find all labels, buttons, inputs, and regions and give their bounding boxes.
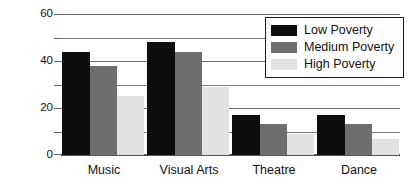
y-tick-60 xyxy=(54,14,61,15)
bar-dance-low-poverty xyxy=(317,115,345,155)
bar-chart: Percentage of Students 60 40 20 0 xyxy=(0,0,410,192)
legend-item-medium-poverty: Medium Poverty xyxy=(271,39,398,56)
bar-dance-high-poverty xyxy=(372,139,399,156)
legend-label-high-poverty: High Poverty xyxy=(304,58,376,71)
legend-swatch-medium-poverty xyxy=(271,42,297,53)
bar-theatre-high-poverty xyxy=(287,134,314,155)
legend-label-medium-poverty: Medium Poverty xyxy=(304,41,394,54)
y-tick-10 xyxy=(54,132,61,133)
legend: Low Poverty Medium Poverty High Poverty xyxy=(265,17,404,78)
y-tick-0 xyxy=(54,154,61,155)
y-tick-label-20: 20 xyxy=(29,102,53,114)
y-tick-label-60: 60 xyxy=(29,8,53,20)
x-axis-label-music: Music xyxy=(62,163,146,177)
legend-item-low-poverty: Low Poverty xyxy=(271,22,398,39)
legend-swatch-high-poverty xyxy=(271,59,297,70)
x-axis-label-visual-arts: Visual Arts xyxy=(147,163,231,177)
bar-theatre-medium-poverty xyxy=(260,124,287,155)
y-tick-label-0: 0 xyxy=(29,149,53,161)
x-axis-label-dance: Dance xyxy=(317,163,401,177)
legend-item-high-poverty: High Poverty xyxy=(271,56,398,73)
y-tick-20 xyxy=(54,108,61,109)
bar-music-low-poverty xyxy=(62,52,90,155)
bar-music-medium-poverty xyxy=(90,66,117,155)
legend-swatch-low-poverty xyxy=(271,25,297,36)
y-tick-40 xyxy=(54,61,61,62)
bar-visual-arts-high-poverty xyxy=(202,87,229,155)
bar-dance-medium-poverty xyxy=(345,124,372,155)
bar-group-visual-arts xyxy=(147,14,231,155)
y-tick-50 xyxy=(54,38,61,39)
x-axis-label-theatre: Theatre xyxy=(232,163,316,177)
bar-visual-arts-low-poverty xyxy=(147,42,175,155)
bar-group-music xyxy=(62,14,146,155)
legend-label-low-poverty: Low Poverty xyxy=(304,24,373,37)
y-tick-30 xyxy=(54,85,61,86)
bar-visual-arts-medium-poverty xyxy=(175,52,202,155)
bar-music-high-poverty xyxy=(117,96,144,155)
bar-theatre-low-poverty xyxy=(232,115,260,155)
y-axis-tick-labels: 60 40 20 0 xyxy=(27,14,53,155)
y-tick-label-40: 40 xyxy=(29,55,53,67)
